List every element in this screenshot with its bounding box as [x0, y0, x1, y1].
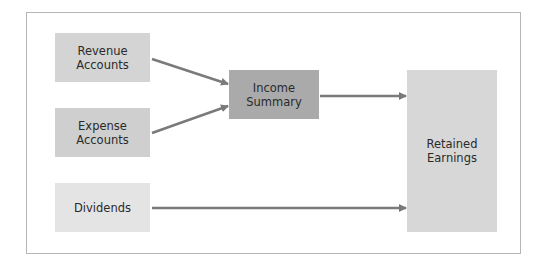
node-label: Expense Accounts	[76, 119, 128, 147]
node-retained-earnings: Retained Earnings	[407, 70, 497, 232]
node-dividends: Dividends	[55, 183, 150, 232]
arrow-revenue-to-income	[152, 59, 228, 84]
node-label: Revenue Accounts	[76, 44, 128, 72]
node-income-summary: Income Summary	[229, 70, 319, 119]
node-expense-accounts: Expense Accounts	[55, 108, 150, 157]
arrow-expense-to-income	[152, 106, 228, 133]
node-label: Dividends	[74, 201, 131, 215]
node-revenue-accounts: Revenue Accounts	[55, 33, 150, 82]
node-label: Retained Earnings	[427, 137, 478, 165]
node-label: Income Summary	[246, 81, 302, 109]
